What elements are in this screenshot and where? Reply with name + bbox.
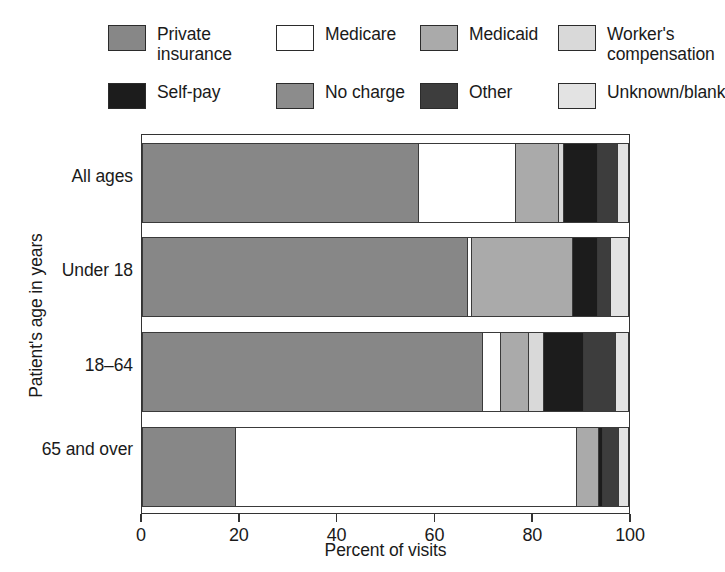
bar-segment-private-insurance xyxy=(142,427,236,507)
y-axis-label-65-and-over: 65 and over xyxy=(3,439,133,460)
legend-item-self-pay: Self-pay xyxy=(108,82,220,109)
bar-segment-medicare xyxy=(419,143,516,223)
legend-item-medicaid: Medicaid xyxy=(420,24,538,51)
legend-row-2: Self-pay No charge Other Unknown/blank xyxy=(108,82,678,128)
legend-swatch-workers-compensation xyxy=(558,25,596,51)
bar-segment-medicaid xyxy=(577,427,599,507)
x-axis-tick xyxy=(434,514,436,522)
bar-segment-private-insurance xyxy=(142,143,419,223)
bar-segment-private-insurance xyxy=(142,332,483,412)
plot-area xyxy=(141,134,630,514)
x-axis-tick xyxy=(336,514,338,522)
bar-segment-self-pay xyxy=(573,237,598,317)
legend-label-no-charge: No charge xyxy=(325,82,405,102)
y-axis-label-all-ages: All ages xyxy=(3,166,133,187)
legend-label-other: Other xyxy=(469,82,512,102)
bar-segment-other xyxy=(598,237,611,317)
bar-segment-self-pay xyxy=(564,143,599,223)
legend-item-private-insurance: Private insurance xyxy=(108,24,232,64)
legend-item-other: Other xyxy=(420,82,512,109)
bar-segment-unknown-blank xyxy=(616,332,629,412)
x-axis-tick xyxy=(629,514,631,522)
table-row xyxy=(142,143,629,223)
legend-label-medicare: Medicare xyxy=(325,24,396,44)
legend-item-medicare: Medicare xyxy=(276,24,396,51)
table-row xyxy=(142,332,629,412)
table-row xyxy=(142,237,629,317)
x-axis-tick xyxy=(531,514,533,522)
x-axis-title: Percent of visits xyxy=(141,540,630,561)
legend-label-medicaid: Medicaid xyxy=(469,24,538,44)
legend-swatch-self-pay xyxy=(108,83,146,109)
bar-segment-private-insurance xyxy=(142,237,468,317)
legend-swatch-medicaid xyxy=(420,25,458,51)
bar-segment-self-pay xyxy=(544,332,584,412)
chart-legend: Private insurance Medicare Medicaid Work… xyxy=(108,24,678,124)
bar-segment-medicaid xyxy=(516,143,559,223)
bar-segment-other xyxy=(598,143,618,223)
x-axis: 020406080100 xyxy=(141,514,630,515)
legend-swatch-private-insurance xyxy=(108,25,146,51)
bar-segment-unknown-blank xyxy=(618,143,629,223)
legend-item-unknown-blank: Unknown/blank xyxy=(558,82,725,109)
legend-item-workers-compensation: Worker's compensation xyxy=(558,24,715,64)
bar-segment-medicaid xyxy=(472,237,573,317)
y-axis-label-under-18: Under 18 xyxy=(3,260,133,281)
legend-swatch-medicare xyxy=(276,25,314,51)
bar-segment-medicare xyxy=(483,332,502,412)
legend-label-private-insurance: Private insurance xyxy=(157,24,232,64)
bar-segment-unknown-blank xyxy=(611,237,629,317)
legend-label-self-pay: Self-pay xyxy=(157,82,220,102)
bar-segment-other xyxy=(584,332,616,412)
legend-swatch-other xyxy=(420,83,458,109)
table-row xyxy=(142,427,629,507)
bar-segment-medicaid xyxy=(501,332,529,412)
bar-segment-other xyxy=(603,427,619,507)
y-axis-label-18-64: 18–64 xyxy=(3,355,133,376)
x-axis-tick xyxy=(140,514,142,522)
legend-item-no-charge: No charge xyxy=(276,82,405,109)
legend-swatch-no-charge xyxy=(276,83,314,109)
x-axis-tick xyxy=(238,514,240,522)
bar-segment-worker-s-compensation xyxy=(529,332,544,412)
legend-row-1: Private insurance Medicare Medicaid Work… xyxy=(108,24,678,70)
legend-swatch-unknown-blank xyxy=(558,83,596,109)
legend-label-workers-compensation: Worker's compensation xyxy=(607,24,715,64)
legend-label-unknown-blank: Unknown/blank xyxy=(607,82,725,102)
bar-segment-medicare xyxy=(236,427,577,507)
y-axis-labels: All ages Under 18 18–64 65 and over xyxy=(0,134,133,514)
bar-segment-unknown-blank xyxy=(619,427,629,507)
